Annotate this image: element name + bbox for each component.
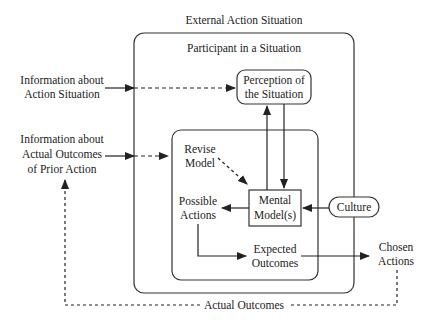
possible-actions-line2: Actions xyxy=(180,209,216,221)
info-outcomes-line2: Actual Outcomes xyxy=(22,148,103,160)
perception-line2: the Situation xyxy=(245,88,304,100)
info-outcomes-line1: Information about xyxy=(20,133,104,145)
perception-line1: Perception of xyxy=(243,74,305,87)
expected-outcomes-line1: Expected xyxy=(254,243,297,256)
participant-label: Participant in a Situation xyxy=(187,42,301,55)
info-action-situation-line1: Information about xyxy=(20,74,104,86)
expected-outcomes-line2: Outcomes xyxy=(252,257,299,269)
info-outcomes-line3: of Prior Action xyxy=(28,163,97,175)
chosen-actions-line2: Actions xyxy=(378,255,414,267)
action-situation-diagram: External Action Situation Participant in… xyxy=(0,0,435,324)
mental-model-line1: Mental xyxy=(259,194,292,206)
mental-model-line2: Model(s) xyxy=(254,209,296,222)
external-action-situation-label: External Action Situation xyxy=(186,14,303,26)
revise-model-line2: Model xyxy=(185,157,215,169)
chosen-actions-line1: Chosen xyxy=(379,241,414,253)
possible-actions-line1: Possible xyxy=(179,195,217,207)
revise-model-line1: Revise xyxy=(184,143,215,155)
actual-outcomes-label: Actual Outcomes xyxy=(204,299,285,311)
info-action-situation-line2: Action Situation xyxy=(24,88,100,100)
culture-label: Culture xyxy=(337,201,372,213)
